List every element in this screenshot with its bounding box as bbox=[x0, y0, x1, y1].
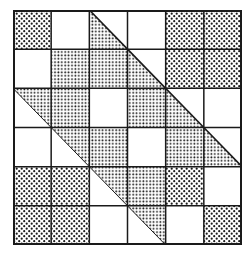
quilt-cell bbox=[89, 128, 127, 167]
quilt-cell bbox=[128, 49, 166, 88]
quilt-cell bbox=[51, 49, 89, 88]
quilt-cell bbox=[51, 167, 89, 206]
quilt-cell bbox=[128, 167, 166, 206]
quilt-cell bbox=[51, 206, 89, 245]
quilt-cell bbox=[51, 10, 89, 49]
quilt-cell bbox=[51, 128, 89, 167]
quilt-cell bbox=[128, 88, 166, 127]
quilt-cell bbox=[128, 10, 166, 49]
quilt-cell bbox=[166, 206, 204, 245]
quilt-cell bbox=[13, 10, 51, 49]
quilt-grid-diagram bbox=[13, 10, 242, 245]
quilt-cell bbox=[13, 167, 51, 206]
quilt-cell bbox=[13, 206, 51, 245]
quilt-cell bbox=[128, 206, 166, 245]
quilt-cell bbox=[89, 88, 127, 127]
quilt-cell bbox=[204, 167, 242, 206]
quilt-cell bbox=[166, 128, 204, 167]
quilt-cell bbox=[13, 88, 51, 127]
quilt-cell bbox=[204, 128, 242, 167]
quilt-cell bbox=[204, 10, 242, 49]
quilt-cell bbox=[128, 128, 166, 167]
quilt-grid-svg bbox=[13, 10, 242, 245]
quilt-cell bbox=[166, 10, 204, 49]
quilt-cell bbox=[89, 10, 127, 49]
quilt-cell bbox=[166, 88, 204, 127]
quilt-cell bbox=[13, 49, 51, 88]
quilt-cell bbox=[204, 88, 242, 127]
quilt-cell bbox=[166, 167, 204, 206]
quilt-cell bbox=[89, 167, 127, 206]
quilt-cell bbox=[166, 49, 204, 88]
quilt-cell bbox=[204, 206, 242, 245]
quilt-cell bbox=[89, 49, 127, 88]
quilt-cell bbox=[204, 49, 242, 88]
quilt-cell bbox=[51, 88, 89, 127]
quilt-cell bbox=[13, 128, 51, 167]
quilt-cell bbox=[89, 206, 127, 245]
